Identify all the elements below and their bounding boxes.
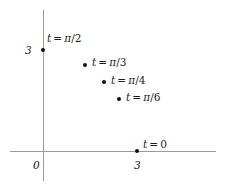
data-point-t-pi-over-2: [41, 48, 45, 52]
x-axis-line: [10, 151, 216, 152]
y-tick-label-3: 3: [25, 45, 32, 56]
data-label-t-pi-over-6: t = π/6: [126, 92, 160, 103]
label-equals: =: [149, 138, 158, 150]
label-equals: =: [132, 91, 141, 103]
data-point-t-0: [135, 149, 139, 153]
label-denominator: 6: [154, 91, 161, 103]
label-value: 0: [160, 138, 167, 150]
label-denominator: 2: [75, 32, 82, 44]
data-point-t-pi-over-4: [102, 80, 106, 84]
data-point-t-pi-over-3: [83, 63, 87, 67]
label-denominator: 4: [139, 74, 146, 86]
data-label-t-0: t = 0: [143, 139, 167, 150]
data-point-t-pi-over-6: [117, 97, 121, 101]
label-denominator: 3: [120, 56, 127, 68]
label-equals: =: [98, 56, 107, 68]
label-equals: =: [117, 74, 126, 86]
scatter-plot-figure: t = π/2 t = π/3 t = π/4 t = π/6 t = 0 3 …: [0, 0, 225, 185]
data-label-t-pi-over-3: t = π/3: [92, 57, 126, 68]
y-axis-line: [43, 10, 44, 181]
x-tick-label-3: 3: [134, 160, 141, 171]
data-label-t-pi-over-4: t = π/4: [111, 75, 145, 86]
label-equals: =: [53, 32, 62, 44]
x-tick-label-origin-0: 0: [33, 160, 40, 171]
data-label-t-pi-over-2: t = π/2: [47, 33, 81, 44]
